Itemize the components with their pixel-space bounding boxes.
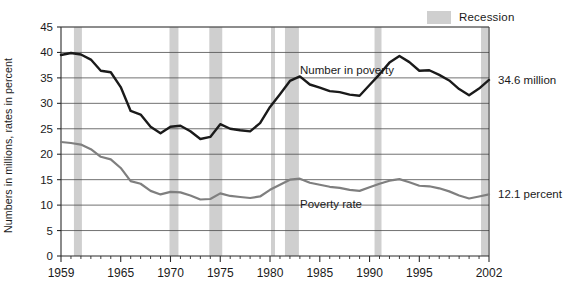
recession-band xyxy=(169,27,178,256)
x-tick-label: 1985 xyxy=(306,266,333,280)
y-tick-label: 25 xyxy=(40,123,53,135)
y-tick-label: 0 xyxy=(47,250,53,262)
x-tick-marks-group xyxy=(61,256,489,262)
x-tick-label: 1995 xyxy=(406,266,433,280)
recession-bands-group xyxy=(74,27,488,256)
recession-band xyxy=(285,27,299,256)
x-tick-label: 1959 xyxy=(48,266,75,280)
x-tick-label: 2002 xyxy=(476,266,503,280)
recession-band xyxy=(375,27,382,256)
y-tick-label: 5 xyxy=(47,225,53,237)
x-tick-label: 1990 xyxy=(356,266,383,280)
recession-band xyxy=(209,27,222,256)
x-tick-labels-group: 195919651970197519801985199019952002 xyxy=(48,266,503,280)
recession-band xyxy=(271,27,275,256)
y-tick-label: 45 xyxy=(40,21,53,33)
number-in-poverty-series-label: Number in poverty xyxy=(300,64,394,76)
number-in-poverty-end-label: 34.6 million xyxy=(498,74,556,86)
poverty-rate-series-label: Poverty rate xyxy=(300,198,362,210)
chart-plot-area: 051015202530354045 195919651970197519801… xyxy=(0,0,579,291)
poverty-chart-figure: Numbers in millions, rates in percent Re… xyxy=(0,0,579,291)
y-tick-label: 40 xyxy=(40,46,53,58)
x-tick-label: 1980 xyxy=(257,266,284,280)
y-tick-label: 20 xyxy=(40,148,53,160)
y-tick-label: 30 xyxy=(40,97,53,109)
x-tick-label: 1970 xyxy=(157,266,184,280)
recession-band xyxy=(74,27,82,256)
y-tick-label: 35 xyxy=(40,72,53,84)
recession-band xyxy=(481,27,488,256)
y-tick-label: 15 xyxy=(40,174,53,186)
x-tick-label: 1965 xyxy=(107,266,134,280)
poverty-rate-end-label: 12.1 percent xyxy=(498,188,563,200)
x-tick-label: 1975 xyxy=(207,266,234,280)
y-tick-label: 10 xyxy=(40,199,53,211)
y-tick-labels-group: 051015202530354045 xyxy=(40,21,53,262)
